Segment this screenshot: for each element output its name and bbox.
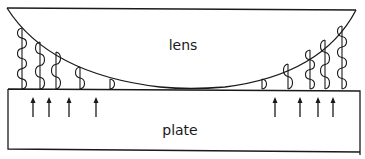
up-arrow-icon <box>67 97 72 117</box>
standing-wave <box>76 67 85 89</box>
up-arrow-icon <box>47 97 52 117</box>
up-arrow-icon <box>316 97 321 117</box>
standing-wave <box>36 42 45 89</box>
plate-label: plate <box>162 122 197 138</box>
up-arrow-icon <box>298 97 303 117</box>
plate: plate <box>8 89 360 155</box>
wave-curve <box>262 79 267 89</box>
lens-top-edge <box>7 8 356 10</box>
standing-wave <box>321 40 330 89</box>
up-arrow-icon <box>94 97 99 117</box>
lens-label: lens <box>169 37 198 53</box>
up-arrow-icon <box>31 97 36 117</box>
upward-arrows <box>31 97 336 117</box>
lens: lens <box>7 8 356 89</box>
newtons-rings-diagram: lens plate <box>0 0 365 159</box>
standing-wave <box>262 79 267 89</box>
standing-wave <box>110 79 115 89</box>
standing-wave <box>338 26 347 89</box>
up-arrow-icon <box>331 97 336 117</box>
up-arrow-icon <box>273 97 278 117</box>
standing-wave <box>284 64 293 89</box>
wave-curve <box>110 79 115 89</box>
standing-waves <box>18 26 347 89</box>
standing-wave <box>306 50 315 89</box>
standing-wave <box>18 28 27 89</box>
